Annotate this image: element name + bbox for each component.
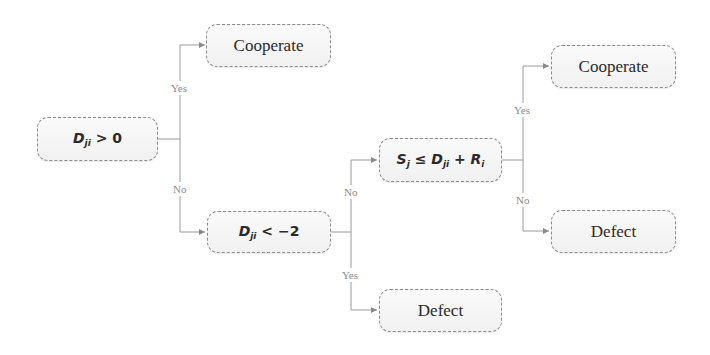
- outcome-label: Defect: [418, 301, 463, 321]
- node-d-less-than-minus-two: Dji < −2: [207, 211, 331, 253]
- edge-label-yes: Yes: [514, 103, 530, 117]
- condition-text: Dji < −2: [239, 223, 300, 241]
- edge-label-no: No: [173, 182, 186, 196]
- edge-label-yes: Yes: [342, 268, 358, 282]
- node-defect-bottom: Defect: [379, 289, 502, 332]
- node-s-condition: Sj ≤ Dji + Ri: [379, 138, 502, 182]
- outcome-label: Defect: [591, 222, 636, 242]
- edge-label-no: No: [516, 193, 529, 207]
- node-cooperate-right: Cooperate: [551, 45, 676, 88]
- edge-label-yes: Yes: [171, 81, 187, 95]
- condition-text: Sj ≤ Dji + Ri: [397, 151, 485, 169]
- condition-text: Dji > 0: [73, 130, 122, 148]
- outcome-label: Cooperate: [579, 57, 649, 77]
- outcome-label: Cooperate: [234, 36, 304, 56]
- node-cooperate-top: Cooperate: [206, 24, 331, 67]
- node-d-greater-than-zero: Dji > 0: [37, 117, 158, 161]
- node-defect-right: Defect: [551, 210, 676, 253]
- edge-label-no: No: [344, 185, 357, 199]
